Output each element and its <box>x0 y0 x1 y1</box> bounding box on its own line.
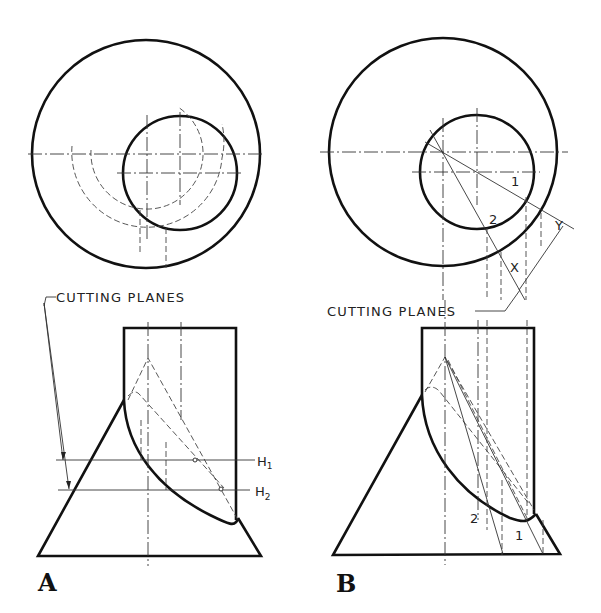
point-2-label: 2 <box>470 511 478 526</box>
cutting-planes-label: CUTTING PLANES <box>56 290 185 305</box>
point-2-label: 2 <box>489 212 497 227</box>
point-1-label: 1 <box>515 528 523 543</box>
hidden-curve <box>128 392 224 488</box>
cone-outline <box>38 400 261 556</box>
y-label: Y <box>554 218 563 233</box>
panel-a-label: A <box>37 568 57 597</box>
point-1-label: 1 <box>511 174 519 189</box>
panel-a-top-view <box>28 40 262 268</box>
panel-a-front-view: CUTTING PLANES H1 H2 <box>38 290 273 566</box>
cone-outline <box>333 395 560 555</box>
leader-arrow-h2 <box>44 303 69 489</box>
panel-b-label: B <box>336 569 356 598</box>
cutting-planes-label: CUTTING PLANES <box>327 304 456 319</box>
h2-label: H2 <box>255 484 271 502</box>
hidden-cone-element <box>425 357 534 510</box>
hidden-element <box>448 360 528 520</box>
leader-line <box>475 290 520 311</box>
panel-b-front-view: CUTTING PLANES 2 1 <box>327 290 560 565</box>
panel-b-top-view: 1 2 X Y <box>320 38 574 300</box>
plane-point <box>219 487 223 491</box>
panel-a: CUTTING PLANES H1 H2 A <box>28 40 273 597</box>
panel-b: 1 2 X Y CUTTING PLANES 2 1 B <box>320 38 574 598</box>
leader-line <box>44 297 56 306</box>
plane-point <box>193 458 197 462</box>
h1-label: H1 <box>257 454 273 471</box>
hidden-cone-element <box>128 358 238 520</box>
hidden-curve <box>425 387 530 505</box>
x-label: X <box>510 260 519 275</box>
intersection-drawing: CUTTING PLANES H1 H2 A <box>0 0 601 613</box>
